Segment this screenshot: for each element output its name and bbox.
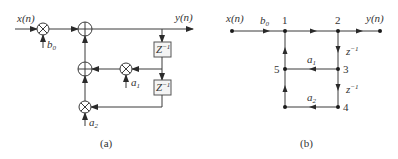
arrow-2-3 (336, 46, 341, 53)
coef-b0-label: b0 (47, 38, 57, 52)
arrow-2-y (356, 29, 363, 34)
branch-a1-label: a1 (307, 53, 316, 67)
branch-a2-label: a2 (307, 91, 317, 105)
multiplier-a2-icon (79, 101, 91, 113)
arrow-b0 (263, 29, 270, 34)
input-label-b: x(n) (225, 12, 244, 25)
node-3-label: 3 (343, 63, 349, 75)
coef-a2-label: a2 (89, 116, 99, 130)
multiplier-a1-icon (120, 63, 132, 75)
node-5 (283, 67, 287, 71)
line-to-multiplier-a2 (91, 95, 162, 107)
input-label-a: x(n) (16, 12, 35, 25)
multiplier-b0-icon (37, 23, 49, 35)
output-label-b: y(n) (365, 12, 384, 25)
node-2-label: 2 (335, 14, 341, 26)
node-1 (283, 29, 287, 33)
arrow-a1 (309, 67, 316, 72)
caption-b: (b) (300, 137, 313, 150)
node-2 (336, 29, 340, 33)
adder-middle-icon (78, 62, 92, 76)
node-x (230, 29, 234, 33)
signal-flow-graph-b: x(n) b0 1 2 y(n) z−1 z−1 a1 a2 3 4 5 (225, 12, 384, 150)
caption-a: (a) (100, 137, 113, 150)
node-bottom-left (283, 105, 287, 109)
node-1-label: 1 (282, 14, 288, 26)
arrow-a2 (309, 105, 316, 110)
arrow-bottom-5 (283, 85, 288, 92)
branch-b0-label: b0 (260, 14, 270, 28)
block-diagram-a: x(n) b0 y(n) Z−1 Z−1 (15, 11, 193, 150)
adder-top-icon (78, 22, 92, 36)
branch-z1-label: z−1 (345, 45, 359, 57)
node-4-label: 4 (343, 101, 349, 113)
node-4 (336, 105, 340, 109)
diagram-canvas: x(n) b0 y(n) Z−1 Z−1 (0, 0, 398, 159)
output-label-a: y(n) (174, 11, 193, 24)
node-y (378, 29, 382, 33)
node-3 (336, 67, 340, 71)
arrow-5-1 (283, 47, 288, 54)
branch-z2-label: z−1 (345, 83, 359, 95)
node-5-label: 5 (274, 63, 280, 75)
coef-a1-label: a1 (131, 76, 140, 90)
arrow-1-2 (310, 29, 317, 34)
arrow-3-4 (336, 84, 341, 91)
